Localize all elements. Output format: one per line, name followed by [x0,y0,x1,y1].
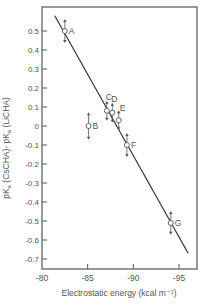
y-tick-label: 0.1 [28,103,40,112]
fit-line [55,16,188,254]
y-tick-label: 0.5 [28,27,40,36]
data-point-a: A [62,20,75,43]
data-point-f: F [124,134,136,157]
point-label: D [111,94,117,104]
y-tick-label: 0.3 [28,65,40,74]
y-tick-label: -0.4 [25,198,39,207]
y-tick-label: 0 [35,122,40,131]
y-tick-label: -0.2 [25,160,39,169]
data-point-g: G [168,212,181,235]
y-tick-label: -0.3 [25,179,39,188]
data-point-b: B [86,113,99,140]
point-label: G [175,218,182,228]
x-axis-label: Electrostatic energy (kcal m⁻¹) [61,288,176,298]
y-tick-label: 0.4 [28,46,40,55]
point-label: A [69,26,75,36]
data-points: ABCDEFG [62,20,181,235]
x-tick-label: -80 [36,273,49,283]
point-label: F [131,140,136,150]
x-axis: -80-85-90-95 [36,264,186,283]
point-label: B [93,121,99,131]
y-axis-label: pKa (CsCHA)- pKa (LiCHA) [1,97,12,199]
point-label: E [120,103,126,113]
y-tick-label: 0.2 [28,84,40,93]
y-axis: 0.50.40.30.20.10-0.1-0.2-0.3-0.4-0.5-0.6… [25,27,47,264]
y-tick-label: -0.5 [25,217,39,226]
y-tick-label: -0.7 [25,255,39,264]
plot-frame [42,7,197,269]
y-tick-label: -0.1 [25,141,39,150]
data-point-d: D [110,94,118,123]
x-tick-label: -90 [127,273,140,283]
y-tick-label: -0.6 [25,236,39,245]
x-tick-label: -95 [173,273,186,283]
data-point-e: E [116,103,126,130]
x-tick-label: -85 [82,273,95,283]
scatter-chart: -80-85-90-95 0.50.40.30.20.10-0.1-0.2-0.… [0,0,204,306]
